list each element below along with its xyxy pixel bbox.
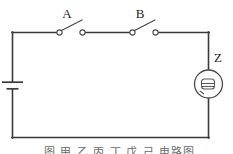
- switch-b-label: B: [136, 6, 145, 21]
- switch-b-symbol[interactable]: [130, 20, 158, 35]
- circuit-svg: A B Z: [0, 0, 233, 154]
- switch-b-lever[interactable]: [134, 20, 156, 31]
- switch-a-symbol[interactable]: [57, 20, 85, 35]
- switch-b-right-contact: [153, 30, 158, 35]
- switch-a-lever[interactable]: [61, 20, 83, 31]
- load-z-label: Z: [214, 50, 222, 65]
- switch-a-right-contact: [80, 30, 85, 35]
- battery-symbol: [2, 82, 23, 89]
- figure-caption-text: 图 甲 乙 丙 丁 戊 己 电路图: [44, 146, 195, 154]
- circuit-figure: A B Z 图 甲 乙 丙 丁 戊 己 电路图: [0, 0, 233, 154]
- switch-b-left-contact: [130, 30, 135, 35]
- load-z-symbol: [195, 70, 223, 98]
- switch-a-label: A: [62, 6, 72, 21]
- figure-caption: 图 甲 乙 丙 丁 戊 己 电路图: [0, 146, 233, 154]
- switch-a-left-contact: [57, 30, 62, 35]
